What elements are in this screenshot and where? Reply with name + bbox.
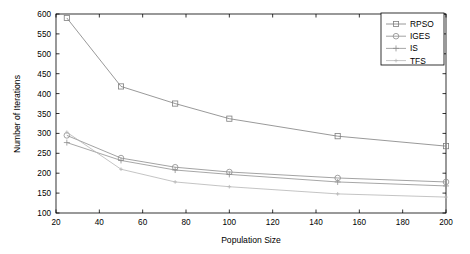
y-tick-label: 450 [37, 70, 51, 79]
y-tick-label: 200 [37, 169, 51, 178]
x-tick-label: 140 [309, 218, 323, 227]
series-line-is [67, 143, 446, 186]
y-tick-label: 500 [37, 50, 51, 59]
chart-figure: 100150200250300350400450500550600 204060… [0, 0, 470, 254]
y-tick-label: 250 [37, 149, 51, 158]
legend-label-rpso: RPSO [410, 19, 434, 29]
x-tick-label: 40 [95, 218, 105, 227]
x-tick-label: 20 [51, 218, 61, 227]
y-axis-title: Number of Iterations [12, 75, 22, 153]
data-point-is [172, 167, 178, 173]
y-tick-label: 300 [37, 129, 51, 138]
y-tick-label: 600 [37, 10, 51, 19]
y-tick-label: 150 [37, 189, 51, 198]
data-point-tfs [336, 192, 340, 196]
series-line-tfs [67, 132, 446, 197]
y-tick-label: 350 [37, 110, 51, 119]
y-tick-label: 550 [37, 30, 51, 39]
y-tick-label: 100 [37, 209, 51, 218]
x-tick-label: 120 [266, 218, 280, 227]
x-tick-label: 200 [439, 218, 453, 227]
legend-label-is: IS [410, 43, 418, 53]
x-tick-label: 180 [396, 218, 410, 227]
data-point-is [64, 140, 70, 146]
x-axis-tick-labels: 20406080100120140160180200 [51, 218, 453, 227]
data-point-tfs [228, 185, 232, 189]
data-point-tfs [173, 180, 177, 184]
data-point-tfs [444, 195, 448, 199]
y-tick-label: 400 [37, 90, 51, 99]
x-tick-label: 60 [138, 218, 148, 227]
x-tick-label: 160 [352, 218, 366, 227]
chart-legend: RPSOIGESISTFS [381, 13, 444, 66]
legend-label-iges: IGES [410, 31, 430, 41]
legend-label-tfs: TFS [410, 56, 426, 66]
line-chart: 100150200250300350400450500550600 204060… [0, 0, 470, 254]
x-tick-label: 100 [222, 218, 236, 227]
y-axis-tick-labels: 100150200250300350400450500550600 [37, 10, 51, 218]
x-axis-title: Population Size [221, 235, 281, 245]
series-is [64, 140, 449, 189]
series-iges [64, 133, 449, 185]
x-tick-label: 80 [181, 218, 191, 227]
